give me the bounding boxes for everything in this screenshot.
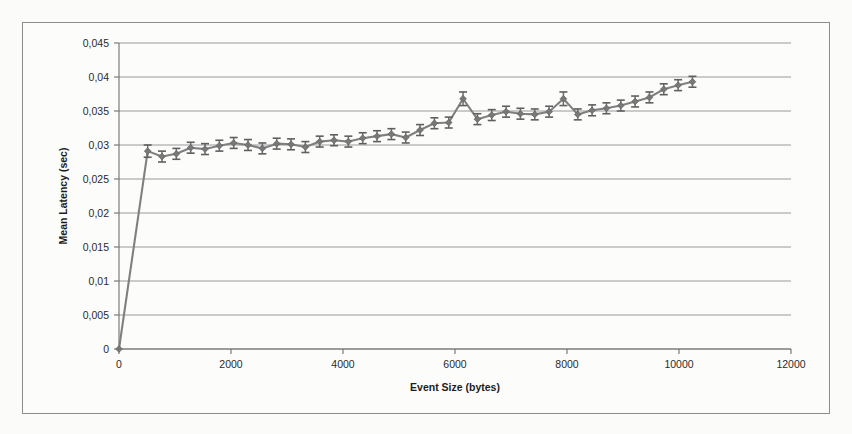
x-tick-label: 8000 (555, 358, 579, 370)
series-line (119, 82, 692, 349)
data-point-marker (216, 142, 223, 149)
y-tick-label: 0,04 (89, 71, 110, 83)
y-tick-label: 0,035 (83, 105, 109, 117)
x-tick-label: 2000 (219, 358, 243, 370)
y-tick-label: 0 (103, 343, 109, 355)
y-tick-label: 0,03 (89, 139, 110, 151)
y-tick-label: 0,005 (83, 309, 109, 321)
data-point-marker (531, 111, 538, 118)
y-tick-label: 0,025 (83, 173, 109, 185)
y-tick-label: 0,02 (89, 207, 110, 219)
x-tick-label: 0 (116, 358, 122, 370)
x-tick-label: 10000 (664, 358, 693, 370)
data-point-marker (689, 78, 696, 85)
data-point-marker (173, 150, 180, 157)
data-point-marker (116, 346, 123, 353)
data-point-marker (288, 141, 295, 148)
data-point-marker (202, 146, 209, 153)
data-point-marker (632, 98, 639, 105)
data-point-marker (617, 102, 624, 109)
data-point-marker (331, 137, 338, 144)
y-tick-label: 0,01 (89, 275, 110, 287)
y-axis-title: Mean Latency (sec) (57, 148, 69, 245)
data-point-marker (388, 131, 395, 138)
figure-frame: 00,0050,010,0150,020,0250,030,0350,040,0… (22, 22, 830, 414)
data-point-marker (374, 133, 381, 140)
data-point-marker (144, 148, 151, 155)
data-point-marker (345, 138, 352, 145)
data-point-marker (273, 140, 280, 147)
chart-canvas: 00,0050,010,0150,020,0250,030,0350,040,0… (23, 23, 831, 415)
data-point-marker (675, 82, 682, 89)
series-0 (116, 76, 697, 352)
x-tick-label: 4000 (331, 358, 355, 370)
data-point-marker (245, 142, 252, 149)
data-point-marker (359, 135, 366, 142)
data-point-marker (431, 120, 438, 127)
x-tick-label: 12000 (776, 358, 805, 370)
data-point-marker (259, 145, 266, 152)
data-point-marker (159, 153, 166, 160)
latency-chart: 00,0050,010,0150,020,0250,030,0350,040,0… (23, 23, 831, 415)
data-point-marker (589, 107, 596, 114)
page-background: 00,0050,010,0150,020,0250,030,0350,040,0… (0, 0, 852, 434)
x-axis-title: Event Size (bytes) (410, 381, 500, 393)
y-tick-label: 0,015 (83, 241, 109, 253)
x-tick-label: 6000 (443, 358, 467, 370)
data-point-marker (503, 108, 510, 115)
y-tick-label: 0,045 (83, 37, 109, 49)
data-point-marker (488, 112, 495, 119)
data-point-marker (316, 138, 323, 145)
